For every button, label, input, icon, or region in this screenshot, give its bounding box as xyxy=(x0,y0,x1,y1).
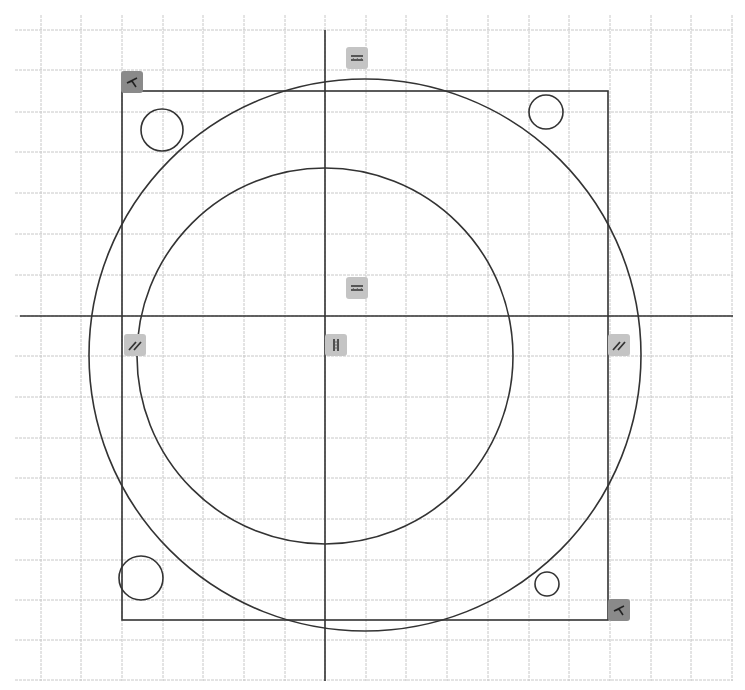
parallel-icon xyxy=(127,337,143,353)
coincident-icon xyxy=(611,602,627,618)
hole-top-left[interactable] xyxy=(141,109,183,151)
hole-bottom-left[interactable] xyxy=(119,556,163,600)
hole-bottom-right[interactable] xyxy=(535,572,559,596)
horizontal-icon xyxy=(349,280,365,296)
sketch-drawing[interactable] xyxy=(0,0,745,690)
parallel-left-constraint[interactable] xyxy=(124,334,146,356)
geometry[interactable] xyxy=(89,79,641,631)
coincident-top-left-constraint[interactable] xyxy=(121,71,143,93)
outer-circle[interactable] xyxy=(89,79,641,631)
sketch-canvas[interactable]: Sketch constraint view xyxy=(0,0,745,690)
horizontal-axis-constraint[interactable] xyxy=(346,277,368,299)
coincident-bottom-right-constraint[interactable] xyxy=(608,599,630,621)
vertical-icon xyxy=(328,337,344,353)
parallel-right-constraint[interactable] xyxy=(608,334,630,356)
coincident-icon xyxy=(124,74,140,90)
vertical-axis-constraint[interactable] xyxy=(325,334,347,356)
parallel-icon xyxy=(611,337,627,353)
horizontal-top-constraint[interactable] xyxy=(346,47,368,69)
horizontal-icon xyxy=(349,50,365,66)
